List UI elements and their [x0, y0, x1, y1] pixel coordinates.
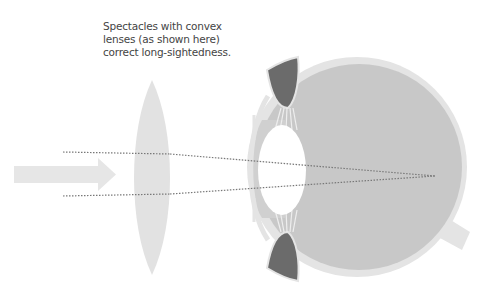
eye-diagram	[0, 0, 480, 294]
convex-spectacle-lens	[134, 80, 170, 275]
incoming-light-arrow-icon	[14, 158, 116, 191]
iris-bottom	[267, 232, 299, 281]
eye-lens	[258, 125, 306, 215]
